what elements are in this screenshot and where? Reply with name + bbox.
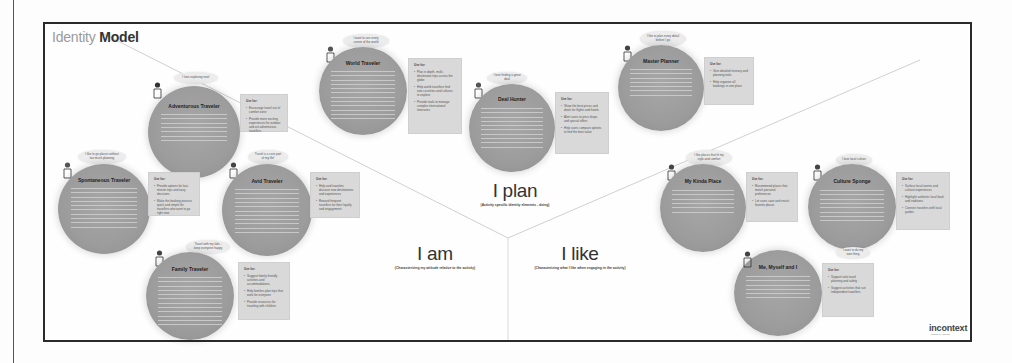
use-for-title: Use for: [414,63,456,67]
use-for-box: Use for: Show the best prices and deals … [555,92,609,154]
use-for-box: Use for: Support solo travel planning an… [822,263,874,317]
use-for-item: Connect travelers with local guides [902,206,944,214]
use-for-box: Use for: Suggest family-friendly activit… [238,262,290,320]
persona-description [71,188,137,228]
persona-circle: Spontaneous Traveler [58,164,150,254]
persona-description [158,277,221,325]
use-for-title: Use for: [710,62,748,66]
persona-description [820,190,883,222]
section-subtitle: (Activity specific identity elements - d… [460,203,570,207]
title-light: Identity [52,29,96,45]
persona-name: Adventurous Traveler [148,103,240,109]
use-for-item: Help avid travelers discover new destina… [316,184,354,196]
use-for-item: Provide tools to manage complex internat… [414,100,456,112]
persona-circle: World Traveler [319,47,407,135]
use-for-title: Use for: [828,268,868,272]
section-subtitle: (Characterizing what I like when engagin… [530,266,630,270]
use-for-title: Use for: [154,177,194,181]
use-for-title: Use for: [752,177,792,181]
persona-circle: My Kinda Place [660,164,746,252]
use-for-item: Give detailed itinerary and planning too… [710,69,748,77]
persona-circle: Family Traveler [146,252,234,340]
section-label: I am [390,243,480,265]
use-for-title: Use for: [246,99,282,103]
use-for-box: Use for: Recommend places that match per… [746,172,798,222]
person-figure-icon [742,251,753,271]
quote-bubble-me-myself: I want to do my own thing [836,247,870,259]
quote-bubble: I love exploring new! [174,72,218,84]
quote-bubble: Travel is a core part of my life! [248,150,288,164]
use-for-box: Use for: Plan in depth, multi-destinatio… [408,58,462,134]
persona-description [746,276,809,302]
persona-name: World Traveler [319,60,407,66]
use-for-item: Help families plan trips that work for e… [244,289,284,297]
logo-tagline: design by insight [931,333,950,336]
use-for-item: Plan in depth, multi-destination trips a… [414,70,456,82]
persona-circle: Culture Sponge [808,164,896,250]
section-i-am: I am (Characterizing my attitude relativ… [390,243,480,270]
use-for-item: Let users save and revisit favorite plac… [752,199,792,207]
persona-description [672,190,734,216]
use-for-box: Use for: Surface local events and cultur… [896,172,950,230]
page-margin-rule [13,0,14,363]
use-for-item: Provide options for last-minute trips an… [154,184,194,196]
persona-circle: Master Planner [618,45,704,131]
persona-description [630,69,692,99]
quote-bubble: I like to go places without too much pla… [78,150,126,164]
section-label: I plan [460,180,570,202]
use-for-item: Show the best prices and deals for fligh… [561,104,603,112]
use-for-title: Use for: [244,267,284,271]
use-for-item: Suggest activities that suit independent… [828,286,868,294]
use-for-item: Encourage travel out of comfort zone [246,106,282,114]
section-i-plan: I plan (Activity specific identity eleme… [460,180,570,207]
use-for-title: Use for: [902,177,944,181]
persona-description [331,71,394,119]
persona-description [481,108,543,148]
persona-name: Family Traveler [146,266,234,272]
use-for-item: Make the booking process quick and simpl… [154,199,194,215]
persona-description [235,189,300,233]
section-label: I like [530,243,630,265]
use-for-item: Help users compare options to find the b… [561,126,603,134]
use-for-box: Use for: Help avid travelers discover ne… [310,172,360,218]
persona-name: Deal Hunter [469,96,555,102]
use-for-item: Help world travellers find new countries… [414,85,456,97]
persona-name: Culture Sponge [808,178,896,184]
use-for-box: Use for: Provide options for last-minute… [148,172,200,216]
use-for-item: Reward frequent travellers for their loy… [316,199,354,211]
use-for-title: Use for: [316,177,354,181]
persona-circle: Deal Hunter [469,84,555,172]
persona-name: Master Planner [618,58,704,64]
persona-circle: Avid Traveler [222,164,312,256]
use-for-item: Help organize all bookings in one place [710,80,748,88]
use-for-item: Provide resources for traveling with chi… [244,300,284,308]
use-for-item: Suggest family-friendly activities and a… [244,274,284,286]
diagram-title: Identity Model [52,29,139,45]
persona-description [161,114,227,144]
use-for-item: Provide more exciting experiences for ou… [246,117,282,133]
use-for-item: Highlight authentic local food and tradi… [902,195,944,203]
use-for-item: Alert users to price drops and special o… [561,115,603,123]
incontext-logo: incontext [929,323,967,333]
title-bold: Model [99,29,138,45]
use-for-item: Recommend places that match personal pre… [752,184,792,196]
use-for-box: Use for: Give detailed itinerary and pla… [704,57,754,105]
persona-circle: Adventurous Traveler [148,86,240,178]
use-for-item: Surface local events and cultural experi… [902,184,944,192]
persona-name: My Kinda Place [660,178,746,184]
use-for-item: Support solo travel planning and safety [828,275,868,283]
persona-name: Avid Traveler [222,178,312,184]
section-subtitle: (Characterizing my attitude relative to … [390,266,480,270]
use-for-title: Use for: [561,97,603,101]
use-for-box: Use for: Encourage travel out of comfort… [240,94,288,132]
section-i-like: I like (Characterizing what I like when … [530,243,630,270]
persona-name: Spontaneous Traveler [58,177,150,183]
quote-bubble: I want to see every corner of the world [343,34,389,48]
quote-bubble: I love finding a great deal [487,72,527,84]
